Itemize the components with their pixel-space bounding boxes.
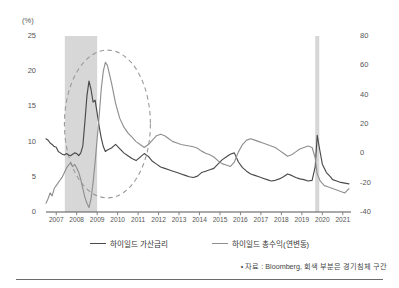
right-axis-tick-label: 40	[360, 90, 384, 99]
legend-item-total-return: 하이일드 총수익(연변동)	[212, 238, 309, 249]
legend-swatch-icon	[212, 243, 228, 244]
left-axis-unit-label: (%)	[22, 16, 34, 25]
right-axis-tick-label: -20	[360, 178, 384, 187]
left-axis-tick-label: 25	[14, 31, 36, 40]
right-axis-tick-label: 0	[360, 148, 384, 157]
left-axis-tick-label: 20	[14, 66, 36, 75]
source-footnote: • 자료 : Bloomberg, 회색 부분은 경기침체 구간	[241, 261, 387, 271]
right-axis-tick-label: 80	[360, 31, 384, 40]
left-axis-tick-label: 0	[14, 207, 36, 216]
legend-label-spread: 하이일드 가산금리	[110, 238, 168, 249]
left-axis-tick-label: 5	[14, 172, 36, 181]
right-axis-tick-label: -40	[360, 207, 384, 216]
right-axis-tick-label: 20	[360, 119, 384, 128]
legend-swatch-icon	[90, 243, 106, 244]
right-axis-tick-label: 60	[360, 60, 384, 69]
left-axis-tick-label: 15	[14, 101, 36, 110]
recession-band	[315, 36, 319, 212]
bottom-divider	[16, 279, 383, 280]
chart-legend: 하이일드 가산금리 하이일드 총수익(연변동)	[0, 238, 399, 249]
left-axis-tick-label: 10	[14, 137, 36, 146]
legend-label-total-return: 하이일드 총수익(연변동)	[232, 238, 309, 249]
legend-item-spread: 하이일드 가산금리	[90, 238, 168, 249]
x-axis-tick-label: 2021	[328, 216, 358, 223]
